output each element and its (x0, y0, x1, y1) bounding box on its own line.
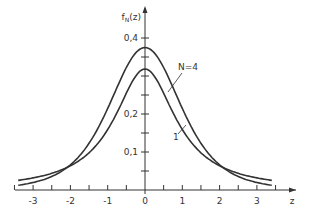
x-tick-label: 3 (254, 196, 260, 206)
x-tick-label: -1 (103, 196, 112, 206)
x-tick-label: 0 (142, 196, 148, 206)
chart: -3-2-101230,10,20,4zfN(z)N=41 (0, 0, 312, 216)
x-tick-label: -3 (29, 196, 38, 206)
y-axis-arrow-icon (143, 6, 148, 13)
x-tick-label: 2 (217, 196, 223, 206)
y-tick-label: 0,2 (124, 109, 138, 119)
y-tick-label: 0,4 (124, 33, 139, 43)
y-axis-label: fN(z) (122, 12, 141, 23)
y-tick-label: 0,1 (124, 147, 138, 157)
annotation-n1: 1 (173, 132, 179, 142)
x-axis-arrow-icon (289, 188, 296, 193)
annotation-n4: N=4 (178, 62, 198, 72)
x-tick-label: 1 (179, 196, 185, 206)
x-tick-label: -2 (66, 196, 75, 206)
x-axis-label: z (290, 196, 295, 206)
axes (14, 6, 296, 194)
